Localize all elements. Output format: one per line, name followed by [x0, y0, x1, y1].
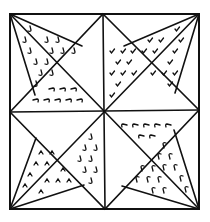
shading-mark — [44, 99, 49, 102]
shading-mark — [168, 60, 173, 64]
shading-mark — [56, 179, 60, 182]
shading-mark — [110, 93, 115, 97]
shading-mark — [180, 176, 183, 181]
shading-mark — [162, 71, 167, 75]
shading-mark — [116, 82, 121, 86]
shading-mark — [139, 135, 144, 138]
shading-mark — [169, 154, 172, 159]
shading-mark — [33, 99, 38, 102]
shading-mark — [152, 188, 155, 193]
shading-mark — [173, 71, 178, 75]
ul-point-edge-a — [10, 14, 82, 46]
shading-mark — [131, 49, 136, 53]
shading-mark — [110, 49, 115, 53]
shading-mark — [60, 88, 65, 91]
shading-mark — [121, 71, 126, 75]
shading-mark — [72, 48, 75, 53]
shading-mark — [28, 26, 31, 31]
shading-mark — [142, 49, 147, 53]
shading-mark — [45, 59, 48, 64]
shading-mark — [168, 82, 173, 86]
shading-mark — [45, 179, 49, 182]
ll-point-edge-a — [10, 138, 36, 209]
shading-mark — [89, 178, 92, 183]
shading-mark — [23, 37, 26, 42]
shading-mark — [56, 37, 59, 42]
shading-mark — [45, 162, 49, 165]
shading-mark — [158, 154, 161, 159]
shading-mark — [166, 124, 171, 127]
horizontal-center-line — [10, 110, 199, 112]
shading-mark — [83, 167, 86, 172]
shading-mark — [158, 177, 161, 182]
shading-mark — [174, 165, 177, 170]
shading-mark — [89, 134, 92, 139]
shading-mark — [28, 48, 31, 53]
shading-mark — [94, 145, 97, 150]
quilt-block-drawing — [0, 0, 210, 222]
shading-mark — [155, 124, 160, 127]
shading-mark — [144, 124, 149, 127]
shading-mark — [55, 99, 60, 102]
shading-mark — [153, 49, 158, 53]
shading-mark — [136, 177, 139, 182]
shading-mark — [127, 60, 132, 64]
shading-mark — [152, 166, 155, 171]
shading-mark — [77, 99, 82, 102]
shading-mark — [39, 70, 42, 75]
shading-mark — [78, 156, 81, 161]
shading-mark — [163, 188, 166, 193]
shading-mark — [94, 167, 97, 172]
shading-mark — [23, 184, 27, 187]
shading-mark — [83, 145, 86, 150]
shading-mark — [110, 71, 115, 75]
shading-mark — [179, 38, 184, 42]
shading-mark — [34, 162, 38, 165]
shading-mark — [173, 49, 178, 53]
shading-mark — [45, 37, 48, 42]
shading-mark — [121, 49, 126, 53]
shading-mark — [39, 190, 43, 193]
shading-mark — [49, 88, 54, 91]
shading-mark — [116, 60, 121, 64]
shading-mark — [148, 38, 153, 42]
shading-mark — [122, 124, 127, 127]
shading-mark — [150, 135, 155, 138]
shading-mark — [159, 38, 164, 42]
shading-mark — [34, 59, 37, 64]
shading-mark — [147, 177, 150, 182]
shading-mark — [50, 48, 53, 53]
shading-mark — [133, 124, 138, 127]
shading-mark — [163, 165, 166, 170]
shading-mark — [61, 48, 64, 53]
shading-mark — [39, 151, 43, 154]
shading-mark — [50, 70, 53, 75]
shading-mark — [28, 173, 32, 176]
shading-mark — [132, 71, 137, 75]
shading-mark — [71, 88, 76, 91]
shading-mark — [151, 71, 156, 75]
shading-mark — [50, 151, 54, 154]
shading-mark — [67, 179, 71, 182]
shading-mark — [175, 27, 180, 31]
shading-mark — [89, 156, 92, 161]
shading-mark — [185, 187, 188, 192]
shading-mark — [66, 99, 71, 102]
